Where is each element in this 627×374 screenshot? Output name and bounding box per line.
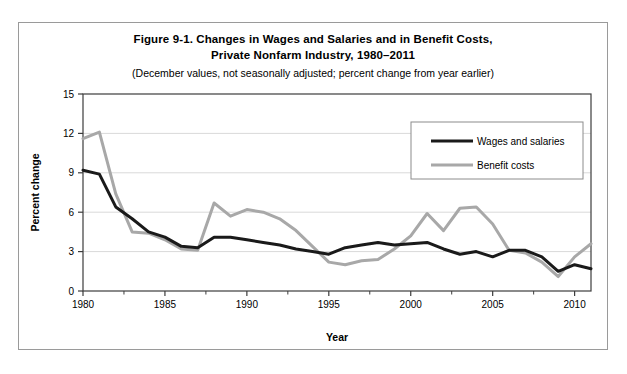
x-axis-ticks: 1980198519901995200020052010 (72, 291, 586, 310)
line-chart: 03691215 1980198519901995200020052010 Ye… (19, 23, 609, 351)
series-line (83, 170, 591, 271)
y-tick-label: 6 (68, 207, 74, 218)
figure-frame: Figure 9-1. Changes in Wages and Salarie… (18, 22, 608, 350)
y-axis-title: Percent change (29, 153, 41, 231)
chart-legend: Wages and salariesBenefit costs (411, 122, 583, 179)
x-tick-label: 1985 (154, 299, 177, 310)
y-tick-label: 0 (68, 286, 74, 297)
y-tick-label: 12 (63, 128, 75, 139)
x-tick-label: 2000 (400, 299, 423, 310)
x-tick-label: 1995 (318, 299, 341, 310)
legend-label: Wages and salaries (477, 136, 564, 147)
y-tick-label: 3 (68, 246, 74, 257)
y-axis-ticks: 03691215 (63, 89, 83, 297)
legend-label: Benefit costs (477, 160, 534, 171)
x-tick-label: 2005 (482, 299, 505, 310)
y-tick-label: 15 (63, 89, 75, 100)
y-tick-label: 9 (68, 167, 74, 178)
x-axis-title: Year (326, 331, 348, 343)
x-tick-label: 1980 (72, 299, 95, 310)
x-tick-label: 2010 (563, 299, 586, 310)
x-tick-label: 1990 (236, 299, 259, 310)
